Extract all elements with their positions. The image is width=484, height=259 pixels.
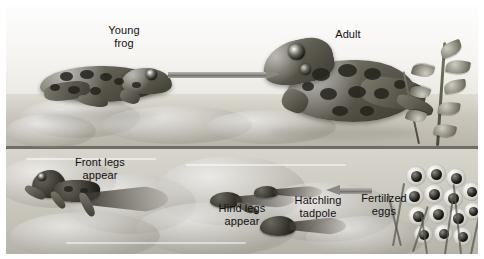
young-frog-spot (80, 70, 94, 79)
arrow-head (266, 69, 280, 79)
label-hind-legs-appear: Hind legs appear (206, 202, 278, 228)
plant-leaf (437, 101, 460, 116)
froglet-eye (38, 173, 46, 181)
weed-strand (470, 201, 478, 254)
adult-frog-spot (302, 82, 314, 91)
young-frog (34, 56, 174, 118)
young-frog-spot (132, 82, 141, 88)
weed-strand (453, 184, 462, 254)
adult-frog-spot (338, 64, 357, 77)
plant-leaf (405, 107, 428, 125)
label-hatchling-tadpole: Hatchling tadpole (282, 194, 354, 220)
adult-frog-spot (332, 106, 348, 116)
froglet-spot (64, 186, 73, 192)
adult-frog-spot (364, 68, 381, 80)
illustration-plate: Young frog Adult Front legs appear Hind … (6, 6, 478, 254)
adult-frog-spot (312, 68, 330, 81)
arrow-young-frog-to-adult (168, 69, 280, 80)
adult-frog-tympanum (300, 64, 311, 75)
young-frog-eye (146, 69, 157, 80)
adult-frog-spot (320, 88, 337, 100)
label-young-frog: Young frog (94, 24, 154, 50)
arrow-shaft (168, 72, 266, 78)
young-frog-spot (60, 72, 73, 81)
young-frog-spot (90, 87, 101, 95)
froglet-spot (80, 188, 88, 193)
water-ripple (186, 164, 346, 166)
plant-leaf (409, 83, 432, 101)
plant-leaf (438, 39, 463, 60)
young-frog-spot (68, 86, 80, 94)
label-adult: Adult (318, 28, 378, 41)
young-frog-spot (50, 84, 60, 91)
adult-frog-eye (288, 44, 305, 60)
young-frog-shadow (40, 110, 160, 122)
adult-frog-spot (374, 88, 389, 99)
water-ripple (66, 242, 246, 244)
label-front-legs-appear: Front legs appear (62, 156, 138, 182)
weed-strand (444, 196, 454, 254)
froglet-tail (88, 184, 168, 214)
young-frog-spot (114, 78, 124, 85)
plant-stem (403, 71, 420, 144)
adult-frog-spot (360, 106, 374, 116)
frog-life-cycle-figure: Young frog Adult Front legs appear Hind … (0, 0, 484, 259)
label-fertilized-eggs: Fertilized eggs (350, 192, 418, 218)
plant-leaf (411, 61, 436, 79)
plant-leaf (445, 58, 471, 76)
shore-plant (394, 24, 478, 148)
plant-leaf (443, 79, 466, 94)
adult-frog-spot (348, 86, 366, 98)
young-frog-spot (100, 73, 112, 81)
